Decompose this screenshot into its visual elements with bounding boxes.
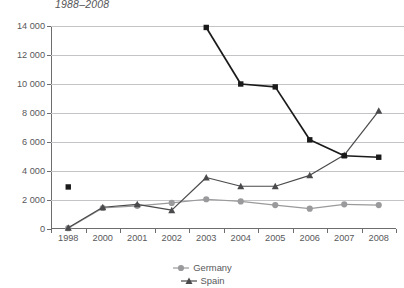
x-axis-tick-label: 2005 bbox=[265, 233, 285, 243]
x-axis-tick bbox=[293, 229, 294, 233]
data-point-marker bbox=[178, 264, 184, 270]
y-axis-tick-label: 14 000 bbox=[3, 21, 45, 31]
y-axis-tick-label: 8 000 bbox=[3, 108, 45, 118]
series-line-segment bbox=[137, 204, 172, 210]
series-line-segment bbox=[275, 205, 310, 209]
chart-title: 1988–2008 bbox=[55, 0, 109, 10]
legend-entry[interactable]: Spain bbox=[180, 275, 225, 286]
x-axis-tick bbox=[327, 229, 328, 233]
y-axis-tick-label: 10 000 bbox=[3, 79, 45, 89]
y-axis-tick-label: 2 000 bbox=[3, 195, 45, 205]
x-axis-tick-label: 2001 bbox=[127, 233, 147, 243]
series-line-segment bbox=[68, 207, 103, 228]
chart-figure: 1988–2008 02 0004 0006 0008 00010 00012 … bbox=[0, 0, 404, 288]
series-line-segment bbox=[310, 204, 345, 208]
data-point-marker bbox=[238, 81, 243, 86]
series-line-segment bbox=[172, 199, 207, 203]
data-point-marker bbox=[238, 198, 244, 204]
series-line-segment bbox=[241, 84, 276, 87]
x-axis-tick bbox=[120, 229, 121, 233]
data-point-marker bbox=[341, 201, 347, 207]
data-point-marker bbox=[307, 137, 312, 142]
x-axis-tick bbox=[189, 229, 190, 233]
data-point-marker bbox=[204, 25, 209, 30]
legend-marker-triangle-icon bbox=[180, 276, 198, 286]
x-axis-tick-label: 2006 bbox=[300, 233, 320, 243]
x-axis-tick-label: 1998 bbox=[58, 233, 78, 243]
y-axis-tick-label: 4 000 bbox=[3, 166, 45, 176]
series-line-segment bbox=[344, 204, 379, 205]
data-point-marker bbox=[169, 200, 175, 206]
data-point-marker bbox=[307, 206, 313, 212]
x-axis-tick-label: 2004 bbox=[231, 233, 251, 243]
series-line-segment bbox=[275, 87, 310, 140]
y-axis-tick-label: 12 000 bbox=[3, 50, 45, 60]
x-axis-tick bbox=[258, 229, 259, 233]
series-line-segment bbox=[310, 155, 345, 175]
series-line-segment bbox=[344, 111, 379, 155]
y-axis-tick-label: 0 bbox=[3, 224, 45, 234]
x-axis-tick-label: 2002 bbox=[162, 233, 182, 243]
legend-marker-circle-icon bbox=[172, 263, 190, 273]
data-point-marker bbox=[375, 107, 382, 113]
x-axis-tick bbox=[224, 229, 225, 233]
y-axis-tick-label: 6 000 bbox=[3, 137, 45, 147]
series-line-segment bbox=[206, 27, 241, 84]
data-point-marker bbox=[66, 184, 71, 189]
x-axis-tick bbox=[51, 229, 52, 233]
series-line-segment bbox=[241, 201, 276, 205]
plot-area: 02 0004 0006 0008 00010 00012 00014 000 … bbox=[51, 26, 396, 229]
series-line-segment bbox=[275, 175, 310, 186]
legend-label: Germany bbox=[193, 262, 232, 273]
legend-entry[interactable]: Germany bbox=[172, 262, 232, 273]
series-line-segment bbox=[206, 199, 241, 201]
data-point-marker bbox=[203, 174, 210, 180]
x-axis-tick-label: 2003 bbox=[196, 233, 216, 243]
x-axis-tick-label: 2000 bbox=[93, 233, 113, 243]
x-axis-tick bbox=[362, 229, 363, 233]
series-line-segment bbox=[172, 178, 207, 211]
legend-label: Spain bbox=[201, 275, 225, 286]
data-point-marker bbox=[376, 155, 381, 160]
data-point-marker bbox=[306, 172, 313, 178]
data-point-marker bbox=[273, 84, 278, 89]
x-axis-tick bbox=[86, 229, 87, 233]
data-point-marker bbox=[272, 202, 278, 208]
series-layer bbox=[51, 26, 396, 229]
data-point-marker bbox=[342, 153, 347, 158]
data-point-marker bbox=[376, 202, 382, 208]
x-axis-tick-label: 2008 bbox=[369, 233, 389, 243]
x-axis-tick bbox=[396, 229, 397, 233]
data-point-marker bbox=[203, 196, 209, 202]
x-axis-tick bbox=[155, 229, 156, 233]
x-axis-tick-label: 2007 bbox=[334, 233, 354, 243]
series-line-segment bbox=[206, 178, 241, 187]
series-line-segment bbox=[344, 156, 379, 157]
series-line-segment bbox=[310, 140, 345, 156]
chart-legend: GermanySpain bbox=[0, 262, 404, 286]
